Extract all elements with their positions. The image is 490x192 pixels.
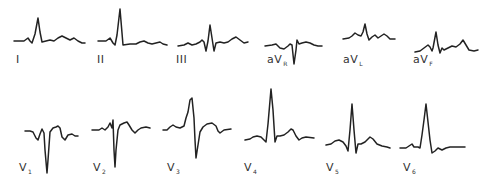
label-text: V	[167, 161, 175, 174]
label-text: III	[176, 53, 187, 66]
label-lead-II: II	[97, 54, 106, 67]
label-subscript: 1	[28, 168, 32, 175]
label-subscript: L	[359, 60, 363, 67]
label-text: II	[97, 53, 105, 66]
label-text: I	[16, 53, 20, 66]
trace-lead-V2	[92, 120, 150, 167]
trace-lead-aVL	[343, 24, 395, 40]
label-text: aV	[343, 53, 358, 66]
label-subscript: 2	[102, 168, 106, 175]
trace-lead-V1	[25, 126, 78, 173]
label-lead-III: III	[176, 54, 188, 67]
label-text: V	[403, 161, 411, 174]
label-lead-V2: V2	[93, 162, 106, 175]
label-lead-V3: V3	[167, 162, 180, 175]
label-text: aV	[413, 53, 428, 66]
trace-lead-II	[98, 9, 167, 45]
label-lead-aVF: aVF	[413, 54, 433, 67]
trace-lead-V3	[163, 98, 231, 158]
label-lead-aVR: aVR	[267, 54, 288, 67]
label-lead-V6: V6	[403, 162, 416, 175]
trace-lead-III	[178, 25, 248, 51]
trace-lead-I	[14, 18, 85, 43]
label-subscript: F	[429, 60, 433, 67]
label-subscript: 5	[335, 168, 339, 175]
label-subscript: 3	[176, 168, 180, 175]
label-lead-V4: V4	[244, 162, 257, 175]
label-text: V	[93, 161, 101, 174]
label-text: V	[326, 161, 334, 174]
label-text: aV	[267, 53, 282, 66]
trace-lead-V6	[400, 104, 465, 153]
label-subscript: 6	[412, 168, 416, 175]
trace-lead-V4	[245, 89, 314, 142]
trace-lead-aVF	[415, 32, 478, 53]
label-lead-V1: V1	[19, 162, 32, 175]
label-lead-I: I	[16, 54, 21, 67]
ecg-12-lead-figure: I II III aVR aVL aVF V1 V2 V3 V4 V5 V6	[0, 0, 490, 192]
label-text: V	[19, 161, 27, 174]
label-text: V	[244, 161, 252, 174]
trace-lead-V5	[326, 104, 390, 153]
label-subscript: R	[283, 60, 288, 67]
label-lead-V5: V5	[326, 162, 339, 175]
label-subscript: 4	[253, 168, 257, 175]
label-lead-aVL: aVL	[343, 54, 363, 67]
